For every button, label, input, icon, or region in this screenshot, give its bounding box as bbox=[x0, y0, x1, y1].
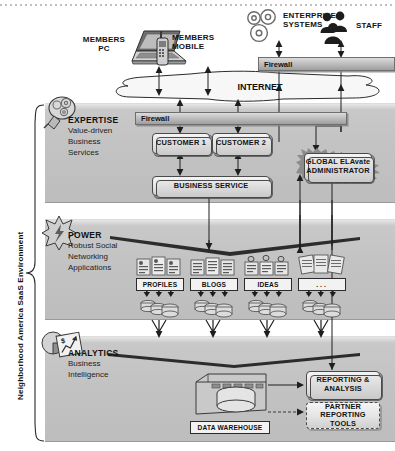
node-customer-1[interactable]: CUSTOMER 1 bbox=[152, 133, 210, 154]
ideas-cards-icon bbox=[244, 256, 290, 276]
analytics-title: ANALYTICS bbox=[68, 348, 144, 358]
expertise-subtitle: Value-driven Business Services bbox=[68, 126, 140, 158]
app-label-more[interactable]: ... bbox=[298, 278, 346, 291]
firewall-expertise-bar: Firewall bbox=[135, 112, 347, 125]
app-label-ideas[interactable]: IDEAS bbox=[244, 278, 292, 291]
node-business-service[interactable]: BUSINESS SERVICE bbox=[152, 176, 270, 196]
data-warehouse-label: DATA WAREHOUSE bbox=[190, 421, 270, 434]
app-label-profiles[interactable]: PROFILES bbox=[136, 278, 184, 291]
node-partner-reporting-tools[interactable]: PARTNER REPORTING TOOLS bbox=[306, 402, 380, 429]
blogs-cards-icon bbox=[190, 256, 236, 276]
node-customer-2[interactable]: CUSTOMER 2 bbox=[212, 133, 270, 154]
app-label-blogs[interactable]: BLOGS bbox=[190, 278, 238, 291]
more-apps-fan-icon bbox=[298, 254, 346, 276]
expertise-title: EXPERTISE bbox=[68, 115, 140, 125]
node-reporting-analysis[interactable]: REPORTING & ANALYSIS bbox=[306, 371, 380, 398]
firewall-top-bar: Firewall bbox=[258, 57, 395, 71]
power-section-head: POWER Robust Social Networking Applicati… bbox=[68, 230, 144, 273]
profiles-cards-icon bbox=[136, 256, 182, 276]
power-app-flows bbox=[0, 288, 395, 320]
diagram-canvas: Neighborhood America SaaS Environment ME… bbox=[0, 0, 395, 451]
expertise-section-head: EXPERTISE Value-driven Business Services bbox=[68, 115, 140, 158]
power-title: POWER bbox=[68, 230, 144, 240]
power-subtitle: Robust Social Networking Applications bbox=[68, 241, 144, 273]
node-global-elavate-administrator[interactable]: GLOBAL ELAvate ADMINISTRATOR bbox=[304, 153, 372, 181]
